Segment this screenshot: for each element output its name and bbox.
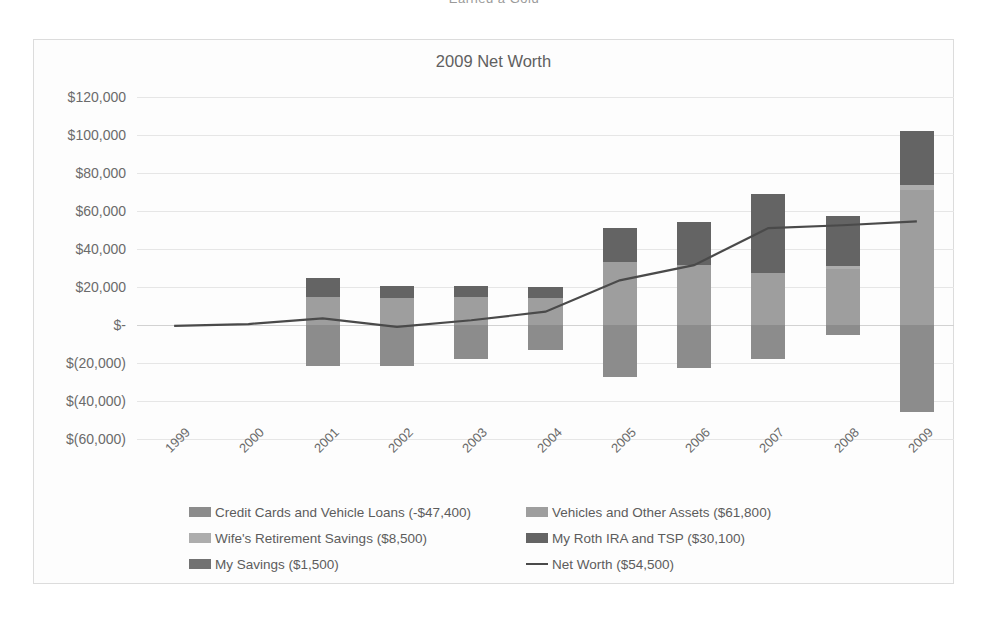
bar-segment[interactable] (528, 325, 562, 350)
bar-segment[interactable] (826, 216, 860, 266)
legend-label: My Savings ($1,500) (215, 557, 339, 572)
bar-segment[interactable] (826, 325, 860, 335)
bar-segment[interactable] (826, 266, 860, 269)
bar-segment[interactable] (826, 269, 860, 325)
legend-line-swatch-icon (526, 563, 548, 565)
bar-segment[interactable] (751, 273, 785, 325)
bar-segment[interactable] (380, 286, 414, 298)
bar-segment[interactable] (306, 278, 340, 297)
bar-group[interactable] (454, 97, 488, 439)
bar-group[interactable] (157, 97, 191, 439)
bar-segment[interactable] (900, 190, 934, 325)
bar-group[interactable] (231, 97, 265, 439)
bar-segment[interactable] (454, 325, 488, 359)
bar-segment[interactable] (306, 297, 340, 326)
bar-segment[interactable] (677, 222, 711, 265)
bar-group[interactable] (826, 97, 860, 439)
bar-segment[interactable] (677, 265, 711, 325)
bar-segment[interactable] (528, 298, 562, 325)
legend-row: My Savings ($1,500)Net Worth ($54,500) (189, 551, 829, 577)
legend-label: Credit Cards and Vehicle Loans (-$47,400… (215, 505, 471, 520)
bar-segment[interactable] (603, 228, 637, 262)
y-axis-tick-label: $80,000 (75, 165, 126, 181)
y-axis-tick-label: $120,000 (68, 89, 126, 105)
clipped-page-header: Earned a Gold (0, 0, 988, 6)
y-axis-tick-label: $20,000 (75, 279, 126, 295)
bar-group[interactable] (306, 97, 340, 439)
legend-color-swatch-icon (526, 507, 548, 517)
legend-color-swatch-icon (189, 507, 211, 517)
bar-segment[interactable] (454, 297, 488, 325)
y-axis-tick-label: $- (114, 317, 126, 333)
y-axis: $120,000$100,000$80,000$60,000$40,000$20… (34, 97, 132, 439)
legend-item[interactable]: Wife's Retirement Savings ($8,500) (189, 525, 526, 551)
legend-label: Vehicles and Other Assets ($61,800) (552, 505, 771, 520)
chart-container: 2009 Net Worth $120,000$100,000$80,000$6… (33, 39, 954, 584)
y-axis-tick-label: $100,000 (68, 127, 126, 143)
legend-color-swatch-icon (189, 559, 211, 569)
bar-group[interactable] (380, 97, 414, 439)
x-axis: 1999200020012002200320042005200620072008… (137, 439, 954, 499)
bar-segment[interactable] (751, 325, 785, 359)
legend-row: Wife's Retirement Savings ($8,500)My Rot… (189, 525, 829, 551)
y-axis-tick-label: $(40,000) (66, 393, 126, 409)
legend-color-swatch-icon (526, 533, 548, 543)
y-axis-tick-label: $(20,000) (66, 355, 126, 371)
bar-segment[interactable] (900, 131, 934, 185)
bar-segment[interactable] (751, 194, 785, 273)
bar-group[interactable] (677, 97, 711, 439)
chart-title: 2009 Net Worth (34, 52, 953, 71)
legend-label: Wife's Retirement Savings ($8,500) (215, 531, 427, 546)
legend-label: My Roth IRA and TSP ($30,100) (552, 531, 745, 546)
bar-segment[interactable] (603, 325, 637, 377)
bar-group[interactable] (900, 97, 934, 439)
legend-item[interactable]: Net Worth ($54,500) (526, 551, 826, 577)
bar-segment[interactable] (677, 325, 711, 368)
legend-item[interactable]: Credit Cards and Vehicle Loans (-$47,400… (189, 499, 526, 525)
legend-color-swatch-icon (189, 533, 211, 543)
y-axis-tick-label: $60,000 (75, 203, 126, 219)
bar-group[interactable] (528, 97, 562, 439)
chart-legend: Credit Cards and Vehicle Loans (-$47,400… (189, 499, 829, 577)
legend-row: Credit Cards and Vehicle Loans (-$47,400… (189, 499, 829, 525)
bar-segment[interactable] (900, 185, 934, 190)
bar-group[interactable] (603, 97, 637, 439)
bar-segment[interactable] (900, 325, 934, 412)
bar-segment[interactable] (528, 287, 562, 298)
bar-segment[interactable] (380, 298, 414, 325)
y-axis-tick-label: $(60,000) (66, 431, 126, 447)
legend-item[interactable]: Vehicles and Other Assets ($61,800) (526, 499, 826, 525)
plot-area (137, 97, 954, 439)
bar-segment[interactable] (380, 325, 414, 366)
legend-item[interactable]: My Roth IRA and TSP ($30,100) (526, 525, 826, 551)
y-axis-tick-label: $40,000 (75, 241, 126, 257)
bar-group[interactable] (751, 97, 785, 439)
bar-segment[interactable] (306, 325, 340, 366)
legend-item[interactable]: My Savings ($1,500) (189, 551, 526, 577)
legend-label: Net Worth ($54,500) (552, 557, 674, 572)
bar-segment[interactable] (454, 286, 488, 297)
plot-inner (137, 97, 954, 439)
bar-segment[interactable] (603, 262, 637, 325)
